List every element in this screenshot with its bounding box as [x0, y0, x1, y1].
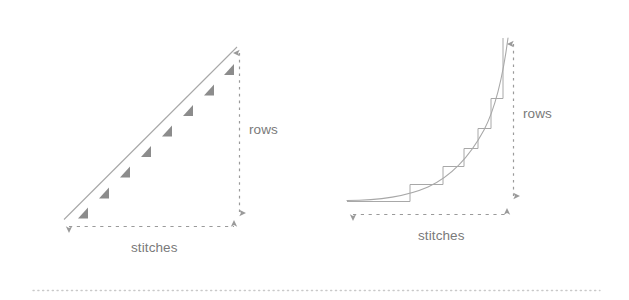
increase-marker — [183, 105, 193, 116]
increase-marker — [141, 146, 151, 157]
increase-marker — [99, 188, 109, 199]
staircase-path — [347, 38, 503, 202]
exponential-curve — [347, 38, 508, 201]
stitches-label-left: stitches — [131, 240, 178, 255]
stitches-label-right: stitches — [418, 228, 465, 243]
rows-label-left: rows — [249, 122, 278, 137]
linear-slope-line — [64, 47, 237, 220]
linear-increase-diagram — [64, 47, 240, 227]
increase-marker — [204, 85, 214, 96]
curved-increase-diagram — [347, 38, 514, 215]
increase-marker-group — [78, 64, 234, 219]
diagram-svg — [0, 0, 629, 300]
increase-marker — [78, 208, 88, 219]
diagram-canvas: rows stitches rows stitches — [0, 0, 629, 300]
increase-marker — [224, 64, 234, 75]
increase-marker — [162, 126, 172, 137]
rows-label-right: rows — [523, 106, 552, 121]
increase-marker — [120, 167, 130, 178]
